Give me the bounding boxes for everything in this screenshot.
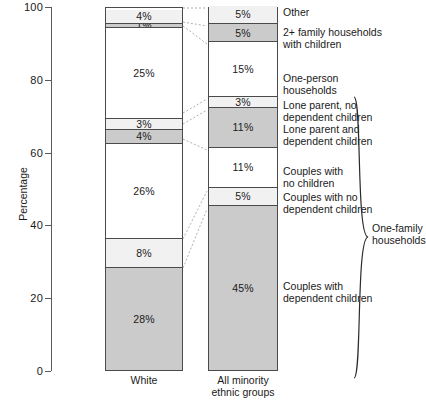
series-label: Other — [283, 6, 309, 18]
series-label: Couples with no children — [283, 165, 343, 189]
one-family-households-brace — [352, 95, 372, 380]
series-label: 2+ family households with children — [283, 26, 382, 50]
series-label: One-person households — [283, 72, 338, 96]
brace-label-one-family-households: One-family households — [372, 222, 426, 246]
